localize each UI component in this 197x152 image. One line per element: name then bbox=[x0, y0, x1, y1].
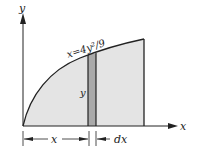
strip bbox=[88, 54, 96, 126]
strip-height-label: y bbox=[79, 87, 86, 98]
dim-x-arrow-right-icon bbox=[79, 137, 88, 141]
dim-x-arrow-left-icon bbox=[24, 137, 33, 141]
x-axis-label: x bbox=[180, 120, 187, 133]
y-axis-label: y bbox=[18, 2, 26, 15]
area-diagram: x y x=4y²/9 y x dx bbox=[0, 0, 197, 152]
dim-x-label: x bbox=[51, 133, 58, 146]
dim-dx-label: dx bbox=[114, 133, 128, 146]
x-axis-arrow-icon bbox=[168, 123, 178, 129]
dim-dx-arrow-icon bbox=[97, 137, 106, 141]
